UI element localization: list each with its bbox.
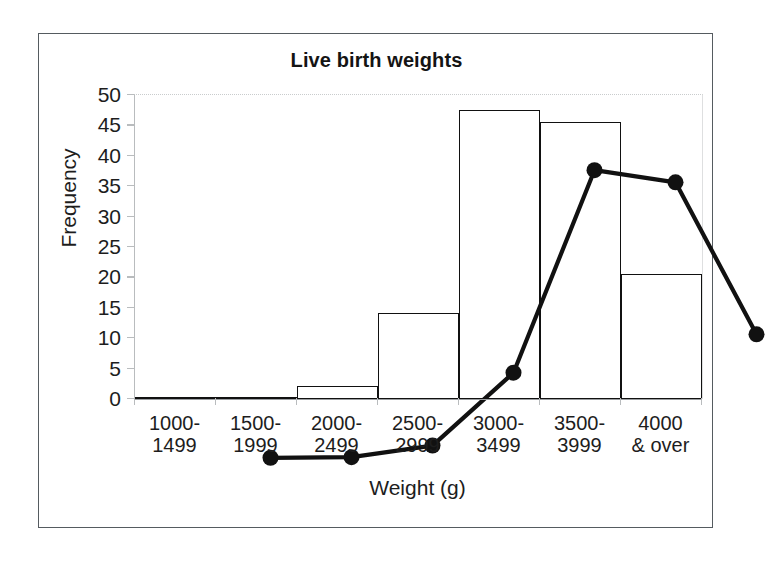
x-axis-tick-label-line: 2500-	[377, 412, 458, 434]
x-axis-tick-label-line: 2499	[296, 434, 377, 456]
y-axis-tick-label: 10	[75, 327, 121, 348]
x-axis-tick-mark	[377, 398, 378, 405]
y-axis-tick-mark	[127, 94, 134, 95]
y-axis-tick-label: 50	[75, 84, 121, 105]
x-axis-tick-label-line: 3499	[458, 434, 539, 456]
y-axis-tick-label: 35	[75, 175, 121, 196]
y-axis-tick-label: 5	[75, 357, 121, 378]
x-axis-title: Weight (g)	[134, 476, 701, 500]
y-axis-tick-label: 45	[75, 114, 121, 135]
y-axis-tick-mark	[127, 337, 134, 338]
y-axis-tick-mark	[127, 124, 134, 125]
x-axis-tick-mark	[458, 398, 459, 405]
x-axis-tick-mark	[539, 398, 540, 405]
x-axis-tick-label-line: & over	[620, 434, 701, 456]
plot-area	[134, 94, 703, 399]
y-axis-tick-mark	[127, 155, 134, 156]
chart-frame: Live birth weights Frequency 05101520253…	[38, 33, 713, 528]
y-axis-tick-label: 15	[75, 296, 121, 317]
x-axis-tick-label-line: 4000	[620, 412, 701, 434]
x-axis-tick-labels: 1000-14991500-19992000-24992500-29993000…	[134, 412, 701, 474]
y-axis-tick-mark	[127, 398, 134, 399]
x-axis-tick-label-line: 1000-	[134, 412, 215, 434]
polygon-data-point	[587, 162, 603, 178]
polygon-data-point	[749, 326, 765, 342]
y-axis-tick-mark	[127, 276, 134, 277]
x-axis-tick-label-line: 1500-	[215, 412, 296, 434]
x-axis-tick-label: 3500-3999	[539, 412, 620, 457]
x-axis-tick-label: 3000-3499	[458, 412, 539, 457]
x-axis-tick-label-line: 3999	[539, 434, 620, 456]
x-axis-tick-label-line: 3000-	[458, 412, 539, 434]
y-axis-tick-labels: 05101520253035404550	[75, 94, 121, 398]
x-axis-tick-marks	[134, 398, 701, 406]
x-axis-tick-label-line: 3500-	[539, 412, 620, 434]
x-axis-tick-mark	[134, 398, 135, 405]
y-axis-tick-label: 40	[75, 144, 121, 165]
x-axis-tick-label-line: 2000-	[296, 412, 377, 434]
x-axis-tick-label: 1500-1999	[215, 412, 296, 457]
y-axis-tick-mark	[127, 185, 134, 186]
x-axis-tick-label: 1000-1499	[134, 412, 215, 457]
x-axis-tick-mark	[620, 398, 621, 405]
polygon-data-point	[668, 174, 684, 190]
x-axis-tick-mark	[701, 398, 702, 405]
polygon-data-point	[506, 365, 522, 381]
chart-title: Live birth weights	[39, 49, 714, 72]
x-axis-tick-label-line: 1499	[134, 434, 215, 456]
x-axis-tick-label-line: 2999	[377, 434, 458, 456]
y-axis-tick-label: 0	[75, 388, 121, 409]
y-axis-tick-label: 20	[75, 266, 121, 287]
y-axis-tick-mark	[127, 216, 134, 217]
x-axis-tick-label: 4000& over	[620, 412, 701, 457]
x-axis-tick-label-line: 1999	[215, 434, 296, 456]
x-axis-tick-label: 2000-2499	[296, 412, 377, 457]
x-axis-tick-mark	[215, 398, 216, 405]
y-axis-tick-label: 25	[75, 236, 121, 257]
y-axis-tick-mark	[127, 246, 134, 247]
y-axis-tick-label: 30	[75, 205, 121, 226]
x-axis-tick-label: 2500-2999	[377, 412, 458, 457]
y-axis-tick-mark	[127, 368, 134, 369]
y-axis-tick-mark	[127, 307, 134, 308]
x-axis-tick-mark	[296, 398, 297, 405]
